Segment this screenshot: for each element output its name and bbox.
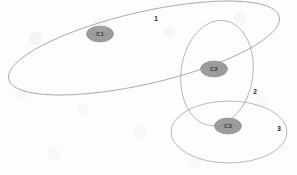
cluster-c3[interactable]: C3 (215, 118, 242, 134)
boundary-label-2: 2 (253, 88, 257, 95)
boundary-label-3: 3 (277, 125, 281, 132)
boundary-ellipse-1[interactable] (0, 0, 287, 114)
cluster-label-c1: C1 (96, 31, 105, 37)
cluster-diagram-svg: C1 C2 C3 1 2 3 (0, 0, 297, 175)
cluster-c1[interactable]: C1 (87, 26, 114, 42)
cluster-diagram-canvas: C1 C2 C3 1 2 3 (0, 0, 297, 175)
cluster-c2[interactable]: C2 (201, 61, 228, 77)
boundary-group (0, 0, 287, 163)
cluster-label-c3: C3 (224, 123, 233, 129)
boundary-label-1: 1 (154, 15, 158, 22)
cluster-label-c2: C2 (210, 66, 219, 72)
